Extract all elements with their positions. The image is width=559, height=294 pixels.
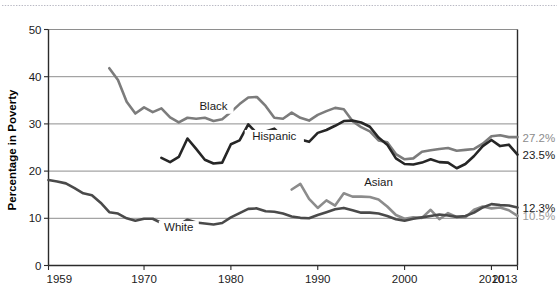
series-line-black	[109, 68, 517, 159]
y-tick-label-50: 50	[29, 24, 42, 36]
y-axis-title: Percentage in Poverty	[6, 89, 18, 210]
series-paths-group	[49, 68, 518, 226]
x-tick-label-1990: 1990	[305, 273, 331, 285]
series-end-value-labels: 27.2%23.5%10.5%12.3%	[523, 132, 556, 223]
y-tick-label-40: 40	[29, 71, 42, 83]
x-tick-label-1970: 1970	[131, 273, 157, 285]
x-tick-label-2013: 2013	[492, 273, 518, 285]
series-label-white: White	[164, 221, 193, 233]
y-tick-label-0: 0	[35, 260, 41, 272]
series-line-asian	[292, 184, 518, 219]
series-line-white	[49, 180, 518, 226]
x-axis-ticks: 1959197019801990200020102013	[47, 266, 518, 285]
x-tick-label-2000: 2000	[392, 273, 418, 285]
series-label-asian: Asian	[364, 176, 393, 188]
end-label-black: 27.2%	[523, 132, 556, 144]
poverty-line-chart: 01020304050 1959197019801990200020102013…	[0, 0, 559, 294]
series-label-hispanic: Hispanic	[252, 130, 296, 142]
end-label-white: 12.3%	[523, 202, 556, 214]
y-tick-label-10: 10	[29, 212, 42, 224]
series-label-black: Black	[199, 100, 227, 112]
y-tick-label-30: 30	[29, 118, 42, 130]
series-inline-labels: BlackHispanicAsianWhite	[159, 100, 399, 235]
gridlines-group	[49, 30, 518, 219]
series-line-hispanic	[161, 121, 517, 169]
x-tick-label-1959: 1959	[47, 273, 73, 285]
y-tick-label-20: 20	[29, 165, 42, 177]
end-label-hispanic: 23.5%	[523, 149, 556, 161]
x-tick-label-1980: 1980	[218, 273, 244, 285]
y-axis-ticks: 01020304050	[29, 24, 49, 272]
chart-canvas: 01020304050 1959197019801990200020102013…	[0, 0, 559, 294]
